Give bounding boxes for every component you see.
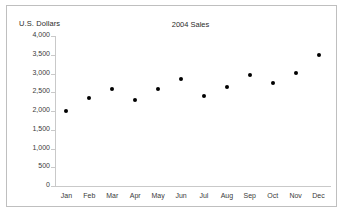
data-point: [133, 98, 137, 102]
chart-title: 2004 Sales: [7, 20, 338, 29]
y-tick-label: 1,000: [32, 144, 50, 151]
x-tick-label-aug: Aug: [221, 192, 233, 199]
y-tick-label: 2,000: [32, 106, 50, 113]
plot-area: [55, 36, 330, 186]
y-tick-label: 3,500: [32, 50, 50, 57]
x-tick-label-dec: Dec: [312, 192, 324, 199]
x-tick-label-jun: Jun: [175, 192, 186, 199]
data-point: [202, 94, 206, 98]
data-point: [225, 85, 229, 89]
y-tick-label: 4,000: [32, 31, 50, 38]
x-tick-label-oct: Oct: [267, 192, 278, 199]
chart-frame: U.S. Dollars 2004 Sales 4,0003,5003,0002…: [6, 5, 337, 207]
x-tick-label-mar: Mar: [106, 192, 118, 199]
y-tick-label: 3,000: [32, 69, 50, 76]
y-tick-label: 2,500: [32, 87, 50, 94]
y-tick-mark: [51, 186, 55, 187]
x-tick-label-apr: Apr: [130, 192, 141, 199]
y-tick-label: 500: [38, 162, 50, 169]
x-tick-label-sep: Sep: [244, 192, 256, 199]
y-tick-label: 1,500: [32, 125, 50, 132]
data-point: [271, 81, 275, 85]
x-tick-label-jan: Jan: [61, 192, 72, 199]
data-point: [317, 53, 321, 57]
x-tick-label-feb: Feb: [83, 192, 95, 199]
x-tick-label-nov: Nov: [289, 192, 301, 199]
y-tick-label: 0: [46, 181, 50, 188]
x-axis-line: [55, 186, 331, 187]
x-tick-label-jul: Jul: [199, 192, 208, 199]
x-tick-label-may: May: [152, 192, 165, 199]
data-point: [294, 71, 298, 75]
data-point: [110, 87, 114, 91]
